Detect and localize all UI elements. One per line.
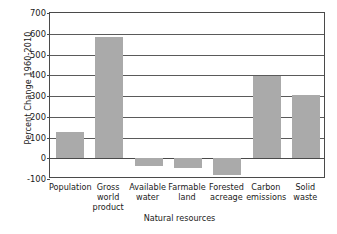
y-tick-label-100: 100 — [2, 133, 46, 141]
x-tick-label-line: acreage — [207, 192, 246, 202]
bar — [174, 158, 202, 167]
group-bracket-label: Natural resources — [133, 213, 226, 224]
y-tick-mark-600 — [47, 34, 50, 35]
x-tick-label-line: Forested — [207, 182, 246, 192]
x-tick-label: Solidwaste — [286, 182, 325, 202]
x-tick-label-line: Solid — [286, 182, 325, 192]
gridline-300 — [50, 96, 324, 97]
bar — [95, 37, 123, 158]
x-tick-label-line: Population — [49, 182, 88, 192]
y-tick-label-300: 300 — [2, 92, 46, 100]
gridline-200 — [50, 117, 324, 118]
x-tick-label-line: world — [88, 192, 127, 202]
x-tick-label-line: water — [128, 192, 167, 202]
bar — [213, 158, 241, 175]
gridline-400 — [50, 75, 324, 76]
x-tick-label: Grossworldproduct — [88, 182, 127, 213]
y-tick-label--100: -100 — [2, 175, 46, 183]
bar — [292, 95, 320, 159]
x-tick-label-line: emissions — [246, 192, 285, 202]
y-tick-mark-200 — [47, 117, 50, 118]
gridline-600 — [50, 34, 324, 35]
y-tick-label-0: 0 — [2, 154, 46, 162]
bar-chart-figure: Percent Change 1960-2010 700600500400300… — [0, 0, 337, 234]
x-tick-label-line: Gross — [88, 182, 127, 192]
y-tick-mark-500 — [47, 55, 50, 56]
y-tick-mark-400 — [47, 75, 50, 76]
plot-area: 7006005004003002001000-100 — [49, 12, 325, 178]
y-tick-label-500: 500 — [2, 50, 46, 58]
y-tick-mark-300 — [47, 96, 50, 97]
x-tick-label: Farmableland — [167, 182, 206, 202]
y-tick-label-600: 600 — [2, 30, 46, 38]
x-tick-label-line: product — [88, 202, 127, 212]
x-tick-label-line: Farmable — [167, 182, 206, 192]
gridline-100 — [50, 138, 324, 139]
y-tick-label-400: 400 — [2, 71, 46, 79]
y-tick-mark-700 — [47, 13, 50, 14]
x-tick-label: Carbonemissions — [246, 182, 285, 202]
x-tick-label-line: Carbon — [246, 182, 285, 192]
x-tick-label-line: Available — [128, 182, 167, 192]
x-tick-label-line: waste — [286, 192, 325, 202]
group-bracket: Natural resources — [133, 211, 226, 222]
bar — [135, 158, 163, 165]
x-tick-label-line: land — [167, 192, 206, 202]
bar — [56, 132, 84, 158]
gridline-500 — [50, 55, 324, 56]
y-tick-mark-100 — [47, 138, 50, 139]
y-tick-mark-0 — [47, 158, 50, 159]
x-tick-label: Availablewater — [128, 182, 167, 202]
x-tick-label: Forestedacreage — [207, 182, 246, 202]
x-tick-label: Population — [49, 182, 88, 192]
y-tick-mark--100 — [47, 179, 50, 180]
y-tick-label-700: 700 — [2, 9, 46, 17]
y-tick-label-200: 200 — [2, 113, 46, 121]
bar — [253, 76, 281, 158]
